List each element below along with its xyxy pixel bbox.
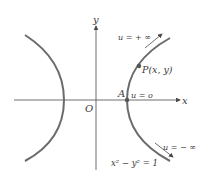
u-zero-label: u = o — [131, 91, 153, 100]
point-A-label: A — [117, 88, 125, 99]
u-plus-infinity-label: u = + ∞ — [118, 33, 151, 42]
point-P — [137, 64, 141, 68]
hyperbola-diagram: y x O A u = o P(x, y) u = + ∞ u = − ∞ x²… — [0, 0, 208, 183]
point-A — [125, 98, 129, 102]
equation-label: x² − y² = 1 — [111, 158, 158, 168]
point-P-label: P(x, y) — [141, 64, 173, 75]
origin-label: O — [85, 103, 93, 114]
u-minus-infinity-label: u = − ∞ — [163, 143, 196, 152]
hyperbola-left-branch — [25, 35, 64, 161]
y-axis-label: y — [92, 14, 99, 25]
x-axis-label: x — [182, 95, 188, 106]
